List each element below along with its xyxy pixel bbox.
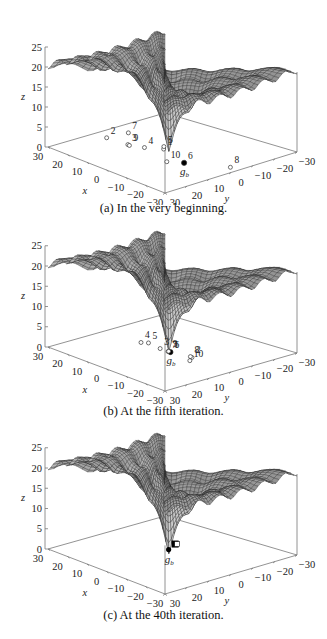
- y-tick-label: 20: [192, 389, 203, 400]
- y-axis-label: y: [223, 595, 229, 606]
- z-tick-label: 10: [32, 301, 43, 312]
- y-tick-label: −10: [255, 170, 271, 181]
- x-tick-label: 20: [52, 561, 63, 572]
- particle-label: 5: [152, 331, 157, 341]
- x-tick-label: 20: [52, 358, 63, 369]
- z-tick-label: 20: [32, 463, 43, 474]
- particle-label: 3: [164, 337, 169, 347]
- caption-a: (a) In the very beginning.: [0, 201, 327, 216]
- x-axis-label: x: [82, 384, 88, 395]
- z-tick-label: 10: [32, 503, 43, 514]
- x-tick-label: 10: [72, 568, 83, 579]
- x-tick-label: 0: [94, 373, 99, 384]
- x-axis-label: x: [82, 587, 88, 598]
- z-tick-label: 25: [32, 240, 43, 251]
- z-tick-label: 15: [32, 82, 43, 93]
- particle-label: 2: [111, 126, 116, 136]
- y-tick-label: −20: [277, 363, 293, 374]
- x-tick-label: 0: [94, 174, 99, 185]
- z-tick-label: 15: [32, 483, 43, 494]
- x-tick-label: 10: [72, 366, 83, 377]
- z-tick-label: 20: [32, 261, 43, 272]
- x-tick-label: 0: [94, 576, 99, 587]
- panel-a: 0510152025z3020100−10−20−30x3020100−10−2…: [0, 0, 327, 205]
- particle-label: 10: [171, 150, 181, 160]
- surface-plot-b: 0510152025z3020100−10−20−30x3020100−10−2…: [0, 216, 327, 409]
- caption-b: (b) At the fifth iteration.: [0, 404, 327, 419]
- y-tick-label: −30: [299, 156, 315, 167]
- y-tick-label: −10: [255, 572, 271, 583]
- z-axis-label: z: [20, 91, 25, 102]
- particle-label: 9: [173, 339, 178, 349]
- particle-label: 4: [148, 136, 153, 146]
- particle-marker: [146, 341, 150, 345]
- particle-marker: [228, 165, 232, 169]
- y-tick-label: 20: [192, 190, 203, 201]
- y-tick-label: −30: [299, 559, 315, 570]
- particle-marker: [126, 131, 130, 135]
- panel-b: 0510152025z3020100−10−20−30x3020100−10−2…: [0, 216, 327, 409]
- x-tick-label: 30: [33, 351, 44, 362]
- z-tick-label: 20: [32, 62, 43, 73]
- particle-marker: [158, 347, 162, 351]
- particle-label: 5: [168, 135, 173, 145]
- particle-marker: [165, 160, 169, 164]
- x-tick-label: 30: [33, 151, 44, 162]
- particle-marker: [188, 355, 192, 359]
- x-tick-label: −20: [127, 591, 143, 602]
- surface-plot-a: 0510152025z3020100−10−20−30x3020100−10−2…: [0, 0, 327, 205]
- particle-label: 6: [188, 151, 193, 161]
- y-tick-label: −20: [277, 566, 293, 577]
- global-best-label: gb: [166, 354, 176, 368]
- z-tick-label: 5: [37, 122, 42, 133]
- particle-label: 8: [234, 155, 239, 165]
- z-tick-label: 5: [37, 321, 42, 332]
- z-tick-label: 15: [32, 281, 43, 292]
- x-axis-label: x: [82, 185, 88, 196]
- z-axis-label: z: [20, 290, 25, 301]
- x-tick-label: −10: [108, 380, 124, 391]
- particle-label: 10: [194, 349, 204, 359]
- y-tick-label: 20: [192, 592, 203, 603]
- x-tick-label: −20: [127, 388, 143, 399]
- z-tick-label: 25: [32, 442, 43, 453]
- caption-c: (c) At the 40th iteration.: [0, 608, 327, 623]
- y-axis-label: y: [223, 392, 229, 403]
- y-tick-label: −30: [299, 357, 315, 368]
- particle-marker: [162, 145, 166, 149]
- y-tick-label: 0: [238, 376, 243, 387]
- particle-marker: [105, 136, 109, 140]
- z-tick-label: 25: [32, 42, 43, 53]
- panel-c: 0510152025z3020100−10−20−30x3020100−10−2…: [0, 420, 327, 613]
- y-tick-label: −20: [277, 163, 293, 174]
- x-tick-label: −10: [108, 583, 124, 594]
- particle-marker: [188, 359, 192, 363]
- y-tick-label: 0: [238, 177, 243, 188]
- y-tick-label: −10: [255, 370, 271, 381]
- global-best-label: gb: [165, 553, 175, 567]
- global-best-marker: [166, 547, 171, 552]
- surface-mesh: [48, 31, 297, 151]
- x-tick-label: −20: [127, 189, 143, 200]
- z-tick-label: 5: [37, 523, 42, 534]
- x-tick-label: 10: [72, 166, 83, 177]
- x-tick-label: −10: [108, 182, 124, 193]
- x-tick-label: 20: [52, 159, 63, 170]
- figure: 0510152025z3020100−10−20−30x3020100−10−2…: [0, 0, 327, 639]
- y-tick-label: 10: [214, 585, 225, 596]
- surface-mesh: [48, 433, 297, 553]
- surface-mesh: [48, 231, 297, 351]
- particle-marker: [167, 349, 171, 353]
- particle-marker: [139, 340, 143, 344]
- y-tick-label: 10: [214, 382, 225, 393]
- particle-marker: [142, 146, 146, 150]
- particle-label: 7: [132, 121, 137, 131]
- surface-plot-c: 0510152025z3020100−10−20−30x3020100−10−2…: [0, 420, 327, 613]
- y-tick-label: 0: [238, 579, 243, 590]
- y-tick-label: 10: [214, 183, 225, 194]
- particle-label: 9: [133, 133, 138, 143]
- particle-marker: [127, 143, 131, 147]
- x-tick-label: 30: [33, 553, 44, 564]
- z-axis-label: z: [20, 492, 25, 503]
- particle-label: 4: [145, 330, 150, 340]
